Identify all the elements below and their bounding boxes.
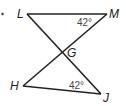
triangle-diagram: L M G H J 42° 42° — [0, 0, 126, 106]
label-g: G — [67, 46, 76, 60]
angle-m-label: 42° — [77, 17, 92, 28]
bullet-dot — [1, 13, 3, 15]
segment-mh — [23, 14, 107, 86]
angle-j-label: 42° — [69, 80, 84, 91]
label-l: L — [17, 7, 24, 21]
label-h: H — [10, 79, 19, 93]
label-j: J — [102, 91, 110, 105]
label-m: M — [109, 7, 119, 21]
segment-hj — [23, 86, 101, 94]
